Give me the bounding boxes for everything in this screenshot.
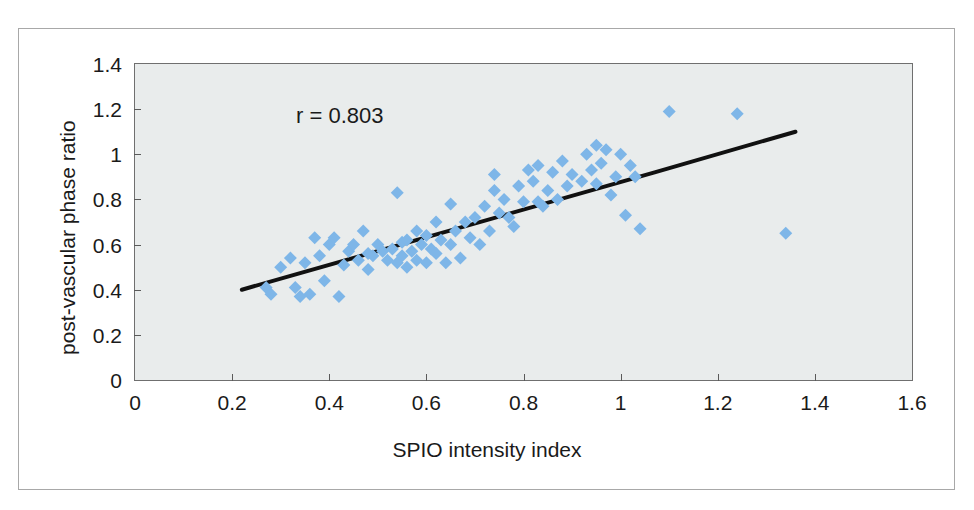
data-point xyxy=(629,170,642,183)
data-point xyxy=(313,249,326,262)
data-point xyxy=(391,186,404,199)
data-point xyxy=(551,193,564,206)
y-tick-label: 0.8 xyxy=(60,189,122,210)
x-tick-mark xyxy=(524,374,525,381)
x-tick-label: 0.2 xyxy=(218,392,247,413)
data-point xyxy=(512,179,525,192)
data-point xyxy=(619,209,632,222)
y-tick-label: 1.4 xyxy=(60,54,122,75)
correlation-annotation: r = 0.803 xyxy=(296,103,383,129)
x-tick-label: 1.6 xyxy=(897,392,926,413)
y-tick-label: 0.4 xyxy=(60,279,122,300)
data-point xyxy=(556,155,569,168)
y-tick-label: 0.2 xyxy=(60,324,122,345)
data-point xyxy=(663,105,676,118)
data-point xyxy=(731,107,744,120)
data-point xyxy=(498,193,511,206)
data-point xyxy=(624,159,637,172)
data-point xyxy=(473,238,486,251)
data-point xyxy=(614,148,627,161)
x-axis-title: SPIO intensity index xyxy=(0,438,974,462)
data-point xyxy=(604,188,617,201)
trend-line xyxy=(242,132,796,290)
data-point xyxy=(303,288,316,301)
plot-svg xyxy=(135,64,912,380)
x-tick-mark xyxy=(232,374,233,381)
data-point xyxy=(439,256,452,269)
x-tick-label: 0.4 xyxy=(315,392,344,413)
x-tick-label: 1.2 xyxy=(703,392,732,413)
data-point xyxy=(580,148,593,161)
data-point xyxy=(464,231,477,244)
x-tick-mark xyxy=(426,374,427,381)
data-point xyxy=(483,225,496,238)
y-tick-label: 1 xyxy=(60,144,122,165)
y-tick-mark xyxy=(134,335,141,336)
y-tick-label: 1.2 xyxy=(60,99,122,120)
scatter-chart: post-vascular phase ratio SPIO intensity… xyxy=(0,0,974,510)
x-tick-mark xyxy=(718,374,719,381)
y-tick-label: 0.6 xyxy=(60,234,122,255)
data-point xyxy=(332,290,345,303)
scatter-series xyxy=(260,105,793,303)
data-point xyxy=(779,227,792,240)
x-tick-label: 0.8 xyxy=(509,392,538,413)
data-point xyxy=(488,184,501,197)
data-point xyxy=(362,263,375,276)
data-point xyxy=(546,166,559,179)
x-tick-mark xyxy=(815,374,816,381)
y-tick-mark xyxy=(134,290,141,291)
data-point xyxy=(454,252,467,265)
data-point xyxy=(561,179,574,192)
data-point xyxy=(585,164,598,177)
data-point xyxy=(430,216,443,229)
y-tick-mark xyxy=(134,199,141,200)
y-tick-mark xyxy=(134,245,141,246)
data-point xyxy=(357,225,370,238)
data-point xyxy=(478,200,491,213)
data-point xyxy=(527,175,540,188)
data-point xyxy=(298,256,311,269)
data-point xyxy=(488,168,501,181)
y-tick-mark xyxy=(134,154,141,155)
x-tick-label: 1.4 xyxy=(800,392,829,413)
x-tick-label: 0.6 xyxy=(412,392,441,413)
y-tick-mark xyxy=(134,109,141,110)
data-point xyxy=(634,222,647,235)
data-point xyxy=(595,157,608,170)
plot-area xyxy=(134,63,913,381)
data-point xyxy=(420,256,433,269)
data-point xyxy=(575,175,588,188)
data-point xyxy=(318,274,331,287)
data-point xyxy=(444,197,457,210)
data-point xyxy=(274,261,287,274)
data-point xyxy=(517,195,530,208)
x-tick-label: 1 xyxy=(615,392,627,413)
x-tick-mark xyxy=(329,374,330,381)
x-tick-label: 0 xyxy=(129,392,141,413)
data-point xyxy=(308,231,321,244)
data-point xyxy=(566,168,579,181)
data-point xyxy=(541,184,554,197)
y-tick-label: 0 xyxy=(60,370,122,391)
data-point xyxy=(284,252,297,265)
x-tick-mark xyxy=(621,374,622,381)
